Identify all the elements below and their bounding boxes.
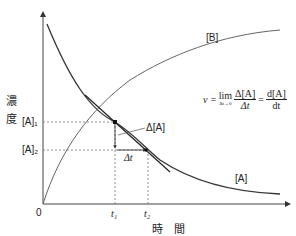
frac1-den: Δt <box>241 100 250 111</box>
y-axis-label-char-2: 度 <box>6 110 17 126</box>
y-tick-a1: [A]₁ <box>22 116 38 127</box>
x-tick-t1: t₁ <box>111 208 117 219</box>
delta-a-label: Δ[A] <box>146 122 165 133</box>
origin-label: 0 <box>36 207 42 218</box>
frac2-den: dt <box>273 100 281 111</box>
rate-diagram <box>0 0 296 236</box>
delta-t-label: Δt <box>124 152 133 163</box>
lim-text: lim <box>219 92 232 100</box>
fraction-derivative: d[A] dt <box>266 88 287 111</box>
rate-formula: v = lim Δt→0 Δ[A] Δt = d[A] dt <box>203 88 287 111</box>
frac2-num: d[A] <box>266 88 287 100</box>
formula-lim: lim Δt→0 <box>219 92 232 108</box>
y-axis-label-char-1: 濃 <box>6 92 17 108</box>
x-tick-t2: t₂ <box>144 208 150 219</box>
point-t1 <box>113 120 117 124</box>
formula-eq: = <box>258 94 264 105</box>
fraction-delta: Δ[A] Δt <box>234 88 256 111</box>
x-axis-label: 時 間 <box>152 220 185 236</box>
frac1-num: Δ[A] <box>234 88 256 100</box>
curve-label-b: [B] <box>206 32 218 43</box>
y-tick-a2: [A]₂ <box>22 144 38 155</box>
curve-label-a: [A] <box>235 173 247 184</box>
lim-sub: Δt→0 <box>219 100 231 108</box>
point-t2 <box>144 148 148 152</box>
formula-v: v = <box>203 94 217 105</box>
